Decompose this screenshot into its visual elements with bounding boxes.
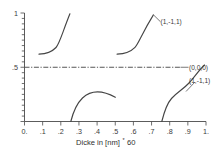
- x-tick-label-7: .7: [149, 127, 155, 136]
- x-axis-title: Dicke in [nm] * 60: [76, 137, 135, 148]
- x-tick-label-9: .9: [185, 127, 191, 136]
- x-tick-label-8: .8: [167, 127, 173, 136]
- x-tick-label-3: .3: [76, 127, 82, 136]
- y-tick-label-0-5: .5: [12, 63, 18, 72]
- x-axis-title-suffix: 60: [127, 138, 135, 147]
- x-tick-label-5: .5: [112, 127, 118, 136]
- annotation-upper-label: (1,-1,1): [161, 18, 182, 26]
- x-tick-label-6: .6: [130, 127, 136, 136]
- x-tick-label-1: .1: [40, 127, 46, 136]
- annotation-lower-label: (1,-1,1): [189, 77, 210, 85]
- annotation-middle-label: (0,0,0): [189, 64, 208, 72]
- x-tick-label-0: 0.: [22, 127, 28, 136]
- x-axis-title-text: Dicke in [nm]: [76, 138, 120, 147]
- chart-figure: 1 .5 0. .1 .2 .3 .4 .5 .6 .7 .8 .9 1. Di…: [0, 0, 217, 149]
- x-tick-label-4: .4: [94, 127, 100, 136]
- chart-svg: 1 .5 0. .1 .2 .3 .4 .5 .6 .7 .8 .9 1. Di…: [0, 0, 217, 149]
- y-tick-label-1: 1: [14, 9, 18, 18]
- x-tick-label-2: .2: [58, 127, 64, 136]
- x-tick-label-10: 1.: [203, 127, 209, 136]
- svg-text:Dicke in [nm]: Dicke in [nm]: [76, 138, 120, 147]
